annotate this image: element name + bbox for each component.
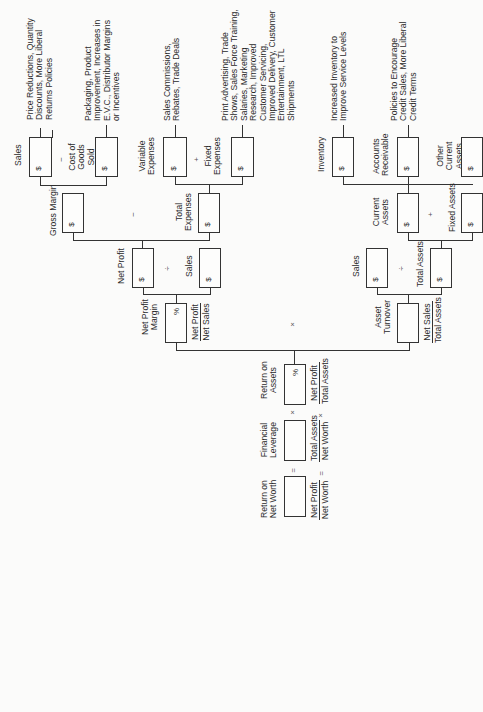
total-expenses-box (198, 193, 220, 233)
current-assets-label: Current Assets (372, 192, 391, 232)
cogs-label: Cost of Goods Sold (68, 136, 96, 178)
dollar-unit: $ (466, 222, 475, 226)
net-profit-label: Net Profit (117, 248, 126, 284)
equals-operator: = (289, 468, 298, 473)
sales-label: Sales (352, 256, 361, 278)
times-operator: × (288, 410, 297, 415)
return-on-net-worth-label: Return on Net Worth (260, 477, 279, 521)
gross-margin-label: Gross Margin (49, 184, 58, 236)
other-current-assets-label: Other Current Assets (436, 132, 464, 180)
sales-label: Sales (14, 145, 23, 167)
dollar-unit: $ (402, 222, 411, 226)
times-operator: × (288, 322, 297, 327)
net-profit-box (132, 248, 154, 288)
current-assets-box (397, 193, 419, 233)
variable-expenses-box (163, 137, 187, 177)
dollar-unit: $ (466, 166, 475, 170)
financial-leverage-label: Financial Leverage (260, 419, 279, 461)
dollar-unit: $ (236, 166, 245, 170)
percent-unit: % (291, 369, 300, 376)
plus-operator: + (426, 212, 435, 217)
accounts-receivable-box (397, 137, 419, 177)
asset-turnover-formula: Net Sales Total Assets (422, 301, 443, 343)
return-on-assets-label: Return on Assets (260, 359, 279, 401)
inventory-annotation: Increased Inventory to Improve Service L… (330, 31, 349, 121)
fixed-assets-box (461, 193, 483, 233)
minus-operator: − (57, 157, 66, 162)
inventory-box (332, 137, 354, 177)
total-assets-label: Total Assets (416, 241, 425, 287)
financial-leverage-formula: Total Assets Net Worth (309, 420, 330, 462)
accounts-receivable-annotation: Policies to Encourage Credit Sales, More… (390, 21, 418, 121)
sales-box (29, 137, 52, 177)
fixed-assets-label: Fixed Assets (448, 183, 457, 232)
total-assets-box (430, 248, 452, 288)
fixed-expenses-label: Fixed Expenses (204, 136, 223, 176)
inventory-label: Inventory (317, 137, 326, 172)
total-expenses-label: Total Expenses (175, 192, 194, 232)
divide-operator: ÷ (163, 266, 172, 270)
asset-turnover-label: Asset Turnover (374, 297, 393, 337)
return-on-net-worth-box (284, 476, 306, 517)
fixed-expenses-box (231, 137, 254, 177)
dollar-unit: $ (371, 277, 380, 281)
net-profit-margin-formula: Net Profit Net Sales (190, 303, 211, 341)
variable-expenses-annotation: Sales Commissions, Rebates, Trade Deals (163, 11, 182, 121)
asset-turnover-box (397, 303, 419, 343)
sales-box (199, 248, 221, 288)
dollar-unit: $ (337, 166, 346, 170)
other-current-assets-box (461, 137, 483, 177)
return-on-net-worth-formula: Net Profit Net Worth (309, 480, 330, 520)
dollar-unit: $ (402, 166, 411, 170)
sales-label: Sales (185, 256, 194, 278)
dollar-unit: $ (67, 222, 76, 226)
sales-box (366, 248, 388, 288)
dollar-unit: $ (204, 277, 213, 281)
plus-operator: + (192, 157, 201, 162)
cogs-annotation: Packaging, Product Improvement, Increase… (84, 11, 122, 121)
financial-leverage-box (284, 420, 306, 461)
equals-operator: = (317, 471, 326, 476)
fixed-expenses-annotation: Print Advertising, Trade Shows, Sales Fo… (221, 6, 296, 121)
dollar-unit: $ (34, 166, 43, 170)
return-on-assets-formula: Net Profit Total Assets (309, 362, 330, 404)
gross-margin-box (62, 193, 84, 233)
percent-unit: % (172, 308, 181, 315)
minus-operator: − (129, 212, 138, 217)
sales-annotation: Price Reductions, Quantity Discounts, Mo… (26, 0, 54, 120)
dollar-unit: $ (435, 277, 444, 281)
dollar-unit: $ (203, 222, 212, 226)
net-profit-margin-label: Net Profit Margin (141, 297, 160, 337)
cogs-box (95, 137, 118, 177)
dollar-unit: $ (169, 166, 178, 170)
accounts-receivable-label: Accounts Receivable (372, 136, 391, 176)
divide-operator: ÷ (397, 266, 406, 270)
dollar-unit: $ (137, 277, 146, 281)
variable-expenses-label: Variable Expenses (138, 136, 157, 176)
dollar-unit: $ (100, 166, 109, 170)
